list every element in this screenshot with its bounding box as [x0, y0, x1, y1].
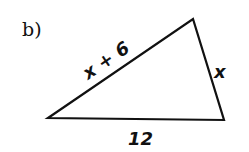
- side-label-right: x: [213, 61, 227, 82]
- triangle-diagram: b) x + 6 x 12: [0, 0, 249, 152]
- side-label-base: 12: [128, 128, 153, 149]
- side-label-left: x + 6: [78, 37, 133, 84]
- triangle: [48, 19, 224, 120]
- part-label: b): [22, 18, 42, 40]
